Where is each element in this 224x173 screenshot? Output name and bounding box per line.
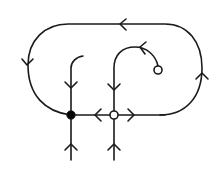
open-node [110,111,118,119]
middle-vertical [108,42,158,160]
outer-loop [22,19,208,115]
phase-diagram [0,0,224,173]
source-circle [154,66,162,74]
filled-node [67,111,75,119]
left-vertical [65,56,83,160]
